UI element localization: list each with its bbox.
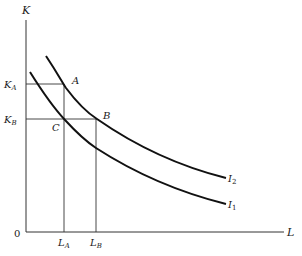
tick-kb: KB <box>3 114 17 127</box>
y-axis-label: K <box>21 4 31 17</box>
tick-lb: LB <box>89 237 102 250</box>
tick-ka: KA <box>3 79 17 92</box>
tick-la: LA <box>57 237 70 250</box>
point-a-label: A <box>71 75 79 86</box>
origin-label: 0 <box>14 228 20 239</box>
isoquant-diagram: K L 0 KA KB LA LB A B C I2 I1 <box>0 0 302 256</box>
point-b-label: B <box>102 110 110 121</box>
x-axis-label: L <box>286 226 294 239</box>
curve-i2-label: I2 <box>227 173 236 186</box>
curve-i1-label: I1 <box>227 199 236 212</box>
point-c-label: C <box>52 122 60 133</box>
